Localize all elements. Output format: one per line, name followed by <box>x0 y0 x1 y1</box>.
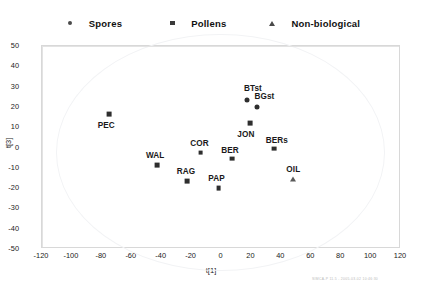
y-tick-label: -10 <box>0 162 19 171</box>
y-tick-label: 0 <box>0 142 19 151</box>
data-point-label-pap: PAP <box>208 174 225 183</box>
square-marker-icon <box>216 186 221 191</box>
circle-marker-icon <box>244 97 249 102</box>
circle-marker-icon <box>255 104 260 109</box>
legend-item-non-biological: Non-biological <box>264 18 360 29</box>
square-marker-icon <box>185 179 190 184</box>
data-point-cor[interactable] <box>198 150 203 155</box>
data-point-pap[interactable] <box>216 186 221 191</box>
software-watermark: SIMCA-P 11.5 - 2005-03-02 10:46:30 <box>312 277 378 281</box>
legend-label-non-biological: Non-biological <box>291 18 360 29</box>
scatter-plot-figure: Spores Pollens Non-biological t[3] t[1] … <box>0 0 422 299</box>
y-tick-label: -40 <box>0 223 19 232</box>
square-marker-icon <box>164 21 180 26</box>
chart-legend: Spores Pollens Non-biological <box>0 12 422 34</box>
legend-label-pollens: Pollens <box>191 18 226 29</box>
data-point-wal[interactable] <box>155 162 160 167</box>
data-point-bers[interactable] <box>271 146 276 151</box>
triangle-marker-icon <box>290 176 296 181</box>
y-tick-label: 20 <box>0 101 19 110</box>
data-point-bgst[interactable] <box>255 104 260 109</box>
y-tick-label: 50 <box>0 41 19 50</box>
square-marker-icon <box>248 121 253 126</box>
triangle-marker-icon <box>264 21 280 26</box>
legend-item-spores: Spores <box>62 18 122 29</box>
y-tick-label: -50 <box>0 244 19 253</box>
legend-label-spores: Spores <box>89 18 122 29</box>
data-point-label-cor: COR <box>190 138 209 147</box>
square-marker-icon <box>107 112 112 117</box>
y-tick-label: -20 <box>0 183 19 192</box>
circle-marker-icon <box>62 21 78 26</box>
data-point-oil[interactable] <box>290 176 296 181</box>
square-marker-icon <box>271 146 276 151</box>
square-marker-icon <box>155 162 160 167</box>
data-point-label-oil: OIL <box>286 164 300 173</box>
data-point-ber[interactable] <box>230 156 235 161</box>
data-point-label-ber: BER <box>221 145 239 154</box>
data-point-label-jon: JON <box>237 130 254 139</box>
data-point-label-rag: RAG <box>177 166 196 175</box>
plot-area: BTstBGstPECJONBERsBERCORWALRAGPAPOIL <box>41 45 400 248</box>
data-point-label-bers: BERs <box>266 135 288 144</box>
y-tick-label: 30 <box>0 81 19 90</box>
legend-item-pollens: Pollens <box>164 18 226 29</box>
square-marker-icon <box>198 150 203 155</box>
data-point-label-bgst: BGst <box>254 91 274 100</box>
data-point-rag[interactable] <box>185 179 190 184</box>
y-tick-label: 10 <box>0 122 19 131</box>
data-point-pec[interactable] <box>107 112 112 117</box>
data-point-jon[interactable] <box>248 121 253 126</box>
data-point-label-wal: WAL <box>146 150 165 159</box>
zero-line-horizontal <box>42 46 399 47</box>
zero-line-vertical <box>42 46 43 247</box>
data-point-btst[interactable] <box>244 97 249 102</box>
square-marker-icon <box>230 156 235 161</box>
data-point-label-pec: PEC <box>98 121 115 130</box>
y-tick-label: -30 <box>0 203 19 212</box>
y-tick-label: 40 <box>0 61 19 70</box>
x-tick-label: 120 <box>380 251 420 260</box>
